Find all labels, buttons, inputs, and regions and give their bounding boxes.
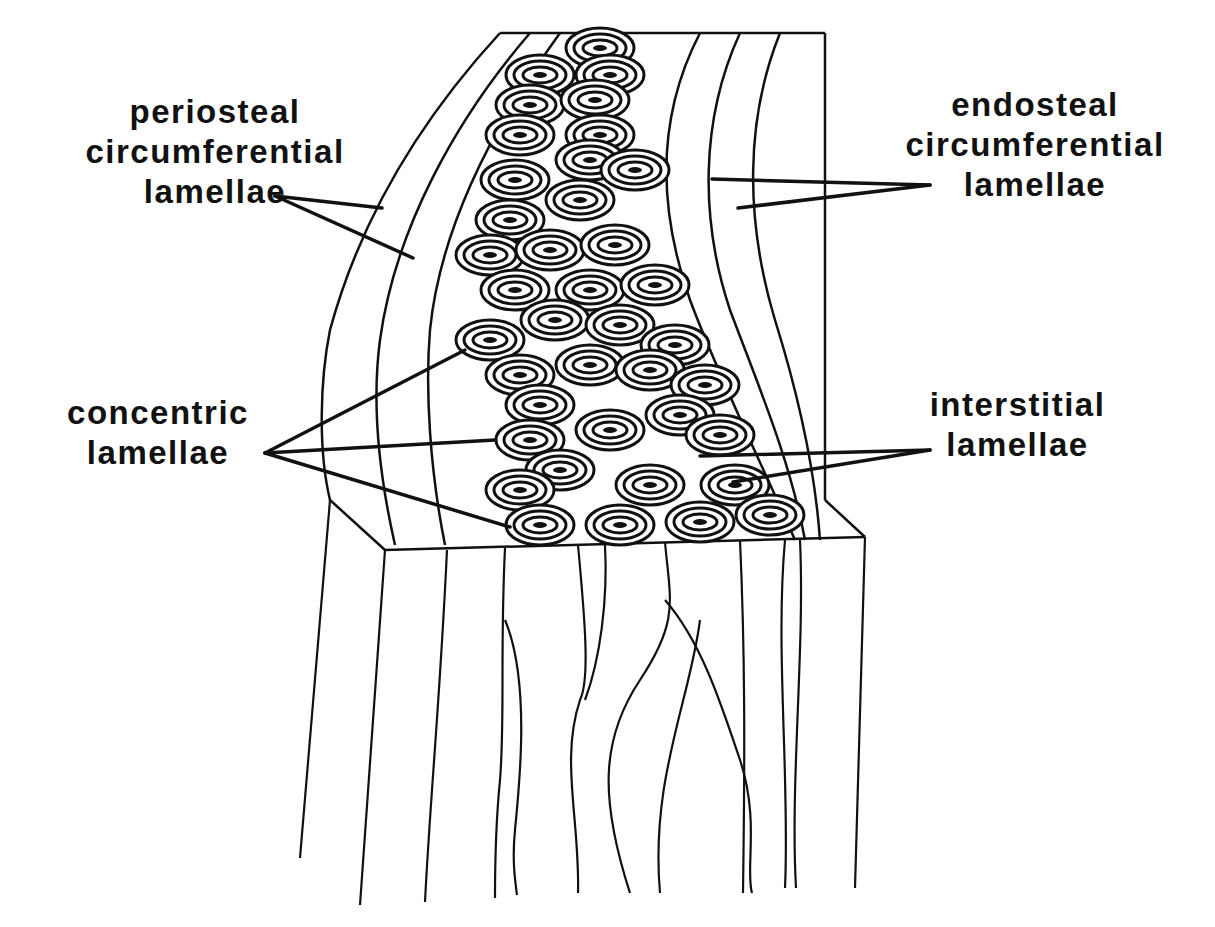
label-line: interstitial bbox=[910, 385, 1125, 425]
label-line: lamellae bbox=[58, 433, 258, 473]
label-concentric-lamellae: concentric lamellae bbox=[58, 393, 258, 473]
bone-lamellae-diagram: periosteal circumferential lamellae endo… bbox=[0, 0, 1215, 927]
osteons bbox=[456, 28, 804, 545]
label-endosteal-circumferential-lamellae: endosteal circumferential lamellae bbox=[885, 85, 1185, 205]
label-line: lamellae bbox=[885, 165, 1185, 205]
front-face bbox=[300, 500, 865, 905]
label-line: lamellae bbox=[85, 172, 345, 212]
label-interstitial-lamellae: interstitial lamellae bbox=[910, 385, 1125, 465]
label-line: endosteal bbox=[885, 85, 1185, 125]
label-periosteal-circumferential-lamellae: periosteal circumferential lamellae bbox=[85, 92, 345, 212]
label-line: lamellae bbox=[910, 425, 1125, 465]
label-line: concentric bbox=[58, 393, 258, 433]
label-line: circumferential bbox=[85, 132, 345, 172]
label-line: periosteal bbox=[85, 92, 345, 132]
label-line: circumferential bbox=[885, 125, 1185, 165]
